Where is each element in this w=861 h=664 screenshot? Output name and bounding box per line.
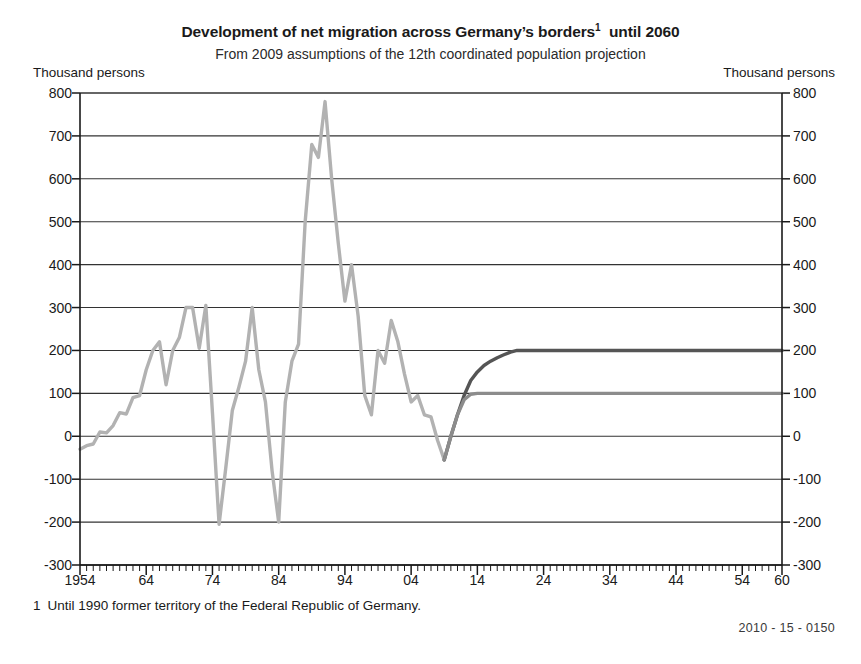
- y-axis-label-left: 800: [49, 86, 72, 100]
- axis-frame: [80, 93, 782, 565]
- y-axis-label-left: 400: [49, 258, 72, 272]
- x-axis-label: 44: [668, 573, 684, 587]
- gridlines: [80, 93, 782, 565]
- y-axis-label-left: 600: [49, 172, 72, 186]
- x-axis-label: 1954: [64, 573, 95, 587]
- x-axis-label: 14: [470, 573, 486, 587]
- y-axis-label-right: 200: [793, 343, 816, 357]
- y-axis-label-right: 500: [793, 215, 816, 229]
- y-axis-label-right: -100: [793, 472, 821, 486]
- x-axis-label: 64: [138, 573, 154, 587]
- chart-figure: Development of net migration across Germ…: [0, 0, 861, 664]
- source-code: 2010 - 15 - 0150: [738, 621, 835, 635]
- x-axis-label: 74: [205, 573, 221, 587]
- data-series-group: [80, 102, 782, 525]
- footnote-text: Until 1990 former territory of the Feder…: [48, 598, 421, 613]
- y-axis-label-left: 500: [49, 215, 72, 229]
- x-axis-label: 84: [271, 573, 287, 587]
- data-series-line-0: [80, 102, 444, 525]
- y-axis-label-right: -300: [793, 558, 821, 572]
- data-series-line-2: [444, 393, 782, 460]
- y-axis-label-left: 200: [49, 343, 72, 357]
- plot-area: [0, 0, 861, 664]
- y-axis-label-left: 0: [64, 429, 72, 443]
- y-axis-label-right: 600: [793, 172, 816, 186]
- y-axis-label-right: 0: [793, 429, 801, 443]
- x-axis-label: 24: [536, 573, 552, 587]
- y-axis-label-left: -200: [44, 515, 72, 529]
- y-axis-label-right: 700: [793, 129, 816, 143]
- footnote: 1Until 1990 former territory of the Fede…: [33, 598, 421, 613]
- y-axis-label-right: 100: [793, 386, 816, 400]
- x-axis-label: 54: [734, 573, 750, 587]
- x-axis-label: 34: [602, 573, 618, 587]
- footnote-number: 1: [33, 598, 41, 613]
- y-axis-label-left: 700: [49, 129, 72, 143]
- y-axis-label-left: 300: [49, 301, 72, 315]
- y-axis-label-right: 800: [793, 86, 816, 100]
- y-axis-label-left: -300: [44, 558, 72, 572]
- x-axis-label: 60: [774, 573, 790, 587]
- x-axis-minor-ticks: [87, 565, 776, 571]
- y-axis-label-right: 400: [793, 258, 816, 272]
- x-axis-label: 94: [337, 573, 353, 587]
- data-series-line-1: [444, 350, 782, 459]
- y-axis-label-right: 300: [793, 301, 816, 315]
- y-axis-label-left: -100: [44, 472, 72, 486]
- y-axis-label-right: -200: [793, 515, 821, 529]
- x-axis-label: 04: [403, 573, 419, 587]
- y-axis-label-left: 100: [49, 386, 72, 400]
